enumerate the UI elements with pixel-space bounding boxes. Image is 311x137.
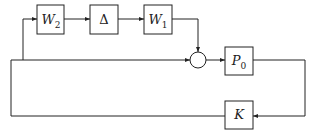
k-to-main-line xyxy=(11,60,225,116)
label-w1: W1 xyxy=(144,6,172,34)
label-k: K xyxy=(225,101,253,129)
label-p0: P0 xyxy=(225,47,253,75)
p0-to-k xyxy=(253,60,305,116)
label-delta: Δ xyxy=(90,6,118,34)
label-w2: W2 xyxy=(37,6,65,34)
summing-junction xyxy=(190,52,206,68)
branch-to-w2 xyxy=(23,19,37,60)
w1-to-sum xyxy=(172,19,198,52)
